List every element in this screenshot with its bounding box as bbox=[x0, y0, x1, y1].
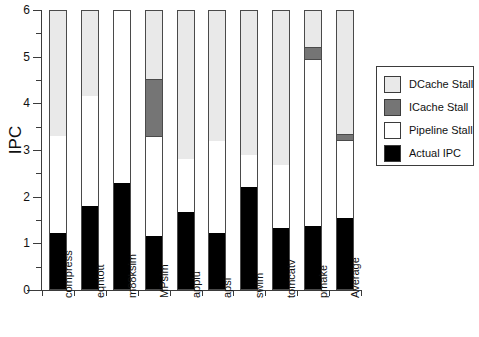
bar-segment-pipeline-stall bbox=[49, 136, 67, 233]
x-axis-label-eqntott: eqntott bbox=[95, 264, 106, 298]
bar-applu bbox=[177, 10, 195, 290]
y-tick-label: 6 bbox=[2, 4, 30, 16]
bar-top-cap bbox=[336, 10, 354, 11]
x-tick bbox=[265, 290, 266, 296]
y-axis-title: IPC bbox=[6, 110, 26, 170]
y-tick-label: 4 bbox=[2, 97, 30, 109]
legend-label: Pipeline Stall bbox=[409, 125, 473, 136]
bar-segment-pipeline-stall bbox=[272, 165, 290, 228]
x-axis-label-average: Average bbox=[350, 257, 361, 298]
bar-tomcatv bbox=[272, 10, 290, 290]
y-tick-label: 3 bbox=[2, 144, 30, 156]
x-axis-label-swim: swim bbox=[254, 273, 265, 298]
dcache-swatch bbox=[384, 76, 401, 93]
bar-top-cap bbox=[304, 10, 322, 11]
bar-segment-pipeline-stall bbox=[304, 60, 322, 226]
y-tick-major bbox=[33, 243, 42, 244]
y-tick-label: 1 bbox=[2, 237, 30, 249]
x-axis-label-tomcatv: tomcatv bbox=[286, 259, 297, 298]
legend-item-dcache-stall: DCache Stall bbox=[384, 75, 473, 93]
bar-segment-pipeline-stall bbox=[208, 141, 226, 233]
bar-segment-dcache-stall bbox=[240, 10, 258, 155]
x-tick bbox=[42, 290, 43, 296]
bar-segment-pipeline-stall bbox=[113, 10, 131, 183]
bar-top-cap bbox=[113, 10, 131, 11]
bar-top-cap bbox=[81, 10, 99, 11]
bar-m88ksim bbox=[113, 10, 131, 290]
bar-swim bbox=[240, 10, 258, 290]
x-axis-label-m88ksim: m88ksim bbox=[127, 254, 138, 298]
x-axis-label-mpsim: MPsim bbox=[159, 264, 170, 298]
chart-legend: DCache StallICache StallPipeline StallAc… bbox=[376, 66, 474, 166]
bar-apsi bbox=[208, 10, 226, 290]
x-axis-label-applu: applu bbox=[191, 271, 202, 298]
y-tick-major bbox=[33, 103, 42, 104]
bar-segment-icache-stall bbox=[145, 79, 163, 137]
bar-top-cap bbox=[49, 10, 67, 11]
x-tick bbox=[361, 290, 362, 296]
bar-top-cap bbox=[208, 10, 226, 11]
bar-eqntott bbox=[81, 10, 99, 290]
bar-segment-dcache-stall bbox=[81, 10, 99, 96]
x-axis-label-compress: compress bbox=[63, 250, 74, 298]
bar-segment-pipeline-stall bbox=[177, 159, 195, 211]
bar-average bbox=[336, 10, 354, 290]
ipc-stacked-bar-chart: IPC 0123456 compresseqntottm88ksimMPsima… bbox=[0, 0, 479, 337]
bar-mpsim bbox=[145, 10, 163, 290]
x-tick bbox=[233, 290, 234, 296]
x-axis-label-apsi: apsi bbox=[222, 278, 233, 298]
bar-pmake bbox=[304, 10, 322, 290]
legend-label: Actual IPC bbox=[409, 148, 461, 159]
x-tick bbox=[297, 290, 298, 296]
legend-label: ICache Stall bbox=[409, 102, 468, 113]
icache-swatch bbox=[384, 99, 401, 116]
y-tick-major bbox=[33, 197, 42, 198]
y-tick-major bbox=[33, 290, 42, 291]
y-tick-major bbox=[33, 10, 42, 11]
bar-top-cap bbox=[177, 10, 195, 11]
bar-segment-pipeline-stall bbox=[336, 141, 354, 218]
legend-item-icache-stall: ICache Stall bbox=[384, 98, 468, 116]
actual-swatch bbox=[384, 145, 401, 162]
legend-item-actual-ipc: Actual IPC bbox=[384, 144, 461, 162]
bar-segment-dcache-stall bbox=[336, 10, 354, 134]
y-tick-major bbox=[33, 150, 42, 151]
bar-segment-dcache-stall bbox=[304, 10, 322, 47]
bar-segment-dcache-stall bbox=[49, 10, 67, 136]
bar-top-cap bbox=[145, 10, 163, 11]
y-tick-label: 5 bbox=[2, 51, 30, 63]
bar-segment-dcache-stall bbox=[272, 10, 290, 165]
bar-segment-pipeline-stall bbox=[145, 137, 163, 236]
bar-segment-icache-stall bbox=[304, 47, 322, 60]
bar-segment-dcache-stall bbox=[145, 10, 163, 79]
bar-compress bbox=[49, 10, 67, 290]
y-tick-major bbox=[33, 57, 42, 58]
bar-segment-dcache-stall bbox=[208, 10, 226, 141]
plot-area bbox=[42, 10, 361, 290]
bar-top-cap bbox=[272, 10, 290, 11]
x-tick bbox=[329, 290, 330, 296]
bar-segment-pipeline-stall bbox=[240, 155, 258, 188]
bar-top-cap bbox=[240, 10, 258, 11]
y-tick-label: 2 bbox=[2, 191, 30, 203]
legend-item-pipeline-stall: Pipeline Stall bbox=[384, 121, 473, 139]
bar-segment-dcache-stall bbox=[177, 10, 195, 159]
x-axis-label-pmake: pmake bbox=[318, 265, 329, 298]
pipeline-swatch bbox=[384, 122, 401, 139]
bar-segment-icache-stall bbox=[336, 134, 354, 141]
y-tick-label: 0 bbox=[2, 284, 30, 296]
bar-segment-pipeline-stall bbox=[81, 96, 99, 206]
legend-label: DCache Stall bbox=[409, 79, 473, 90]
x-tick bbox=[74, 290, 75, 296]
